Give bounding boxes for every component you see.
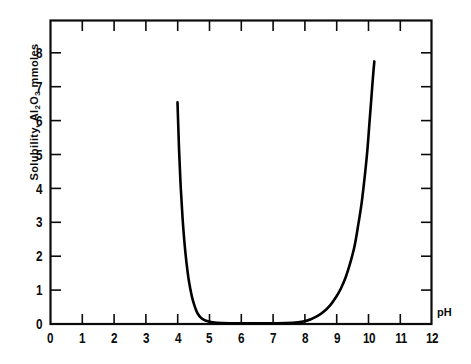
x-tick-label: 11 bbox=[391, 330, 411, 345]
y-axis-title-sub-3: 3 bbox=[33, 91, 42, 96]
x-tick-label: 6 bbox=[231, 330, 251, 345]
x-tick-label: 3 bbox=[136, 330, 156, 345]
solubility-curve bbox=[178, 61, 375, 323]
x-tick-label: 7 bbox=[263, 330, 283, 345]
x-tick-label: 4 bbox=[168, 330, 188, 345]
x-tick-label: 9 bbox=[327, 330, 347, 345]
x-tick-label: 12 bbox=[422, 330, 442, 345]
y-axis-title-prefix: Solubility, Al bbox=[28, 110, 40, 181]
y-axis-title-mid: O bbox=[28, 96, 40, 105]
x-axis-title: pH bbox=[437, 306, 452, 318]
y-axis-title: Solubility, Al2O3 mmoles bbox=[26, 0, 42, 232]
y-tick-label: 0 bbox=[28, 316, 42, 331]
y-axis-ticks-right bbox=[421, 53, 431, 290]
plot-area bbox=[0, 0, 471, 364]
y-tick-label: 2 bbox=[28, 248, 42, 263]
y-axis-ticks-left bbox=[51, 53, 61, 290]
x-axis-ticks-top bbox=[82, 21, 400, 31]
y-axis-title-sub-2: 2 bbox=[33, 105, 42, 110]
y-tick-label: 1 bbox=[28, 282, 42, 297]
x-tick-label: 5 bbox=[199, 330, 219, 345]
x-tick-label: 10 bbox=[359, 330, 379, 345]
x-tick-label: 8 bbox=[295, 330, 315, 345]
x-tick-label: 2 bbox=[104, 330, 124, 345]
x-tick-label: 0 bbox=[40, 330, 60, 345]
x-tick-label: 1 bbox=[72, 330, 92, 345]
y-axis-title-suffix: mmoles bbox=[28, 43, 40, 90]
solubility-chart: 0 1 2 3 4 5 6 7 8 9 10 11 12 0 1 2 3 4 5… bbox=[0, 0, 471, 364]
